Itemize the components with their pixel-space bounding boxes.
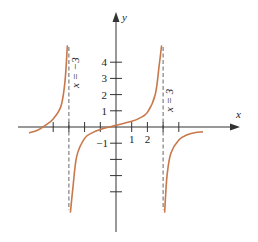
y-tick-label: 3 [102, 72, 108, 84]
x-tick-label: 1 [129, 133, 135, 145]
x-axis-label: x [235, 108, 241, 120]
y-tick-label: 4 [102, 56, 108, 68]
y-axis-label: y [121, 11, 127, 23]
curve-branch [165, 132, 203, 212]
y-tick-label: 2 [102, 89, 108, 101]
function-graph: x = −3x = 31234−112xy [0, 0, 258, 242]
curve-branch [30, 46, 68, 133]
x-tick-label: 2 [145, 133, 151, 145]
labels: x = −3x = 31234−112xy [69, 11, 241, 149]
x-tick-label: −1 [96, 137, 108, 149]
y-axis-arrow-icon [113, 12, 120, 22]
asymptote-label: x = 3 [163, 88, 175, 113]
x-axis-arrow-icon [230, 124, 240, 131]
asymptote-label: x = −3 [69, 57, 81, 89]
y-tick-label: 1 [102, 105, 108, 117]
